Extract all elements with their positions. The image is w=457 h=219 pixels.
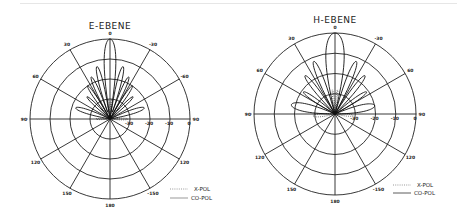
- legend: X-POL CO-POL: [393, 182, 436, 196]
- h-plane-polar-chart: H-EBENE 030-3060609090120120150-150180 -…: [245, 15, 436, 204]
- angle-label: -150: [373, 187, 384, 192]
- radial-label: -20: [145, 121, 153, 126]
- grid-spoke: [110, 119, 150, 188]
- angle-label: 0: [108, 31, 111, 36]
- angle-label: 150: [62, 191, 71, 196]
- angle-label: 60: [407, 68, 413, 73]
- angle-label: 30: [288, 36, 294, 41]
- angle-label: 90: [21, 117, 27, 122]
- angle-label: 60: [32, 74, 38, 79]
- chart-title-h-plane: H-EBENE: [313, 15, 356, 25]
- angle-label: 90: [193, 117, 199, 122]
- legend: X-POL CO-POL: [170, 186, 213, 201]
- angle-label: 0: [333, 25, 336, 30]
- angle-label: 120: [255, 155, 264, 160]
- angle-label: 30: [64, 42, 70, 47]
- angle-label: -30: [149, 42, 157, 47]
- angle-label: -60: [180, 74, 188, 79]
- grid-spoke: [70, 119, 110, 188]
- e-plane-polar-chart: E-EBENE 030-3060-609090120120150-150180 …: [21, 21, 213, 208]
- angle-label: 180: [330, 199, 339, 204]
- radial-label: -20: [370, 116, 378, 121]
- radial-label: -30: [350, 116, 358, 121]
- radial-tick-labels: -30-20-100: [350, 116, 416, 121]
- radial-label: 0: [413, 116, 416, 121]
- radial-label: -10: [165, 121, 173, 126]
- legend-xpol-label: X-POL: [194, 186, 211, 192]
- angle-label: 120: [406, 155, 415, 160]
- angle-label: 150: [287, 187, 296, 192]
- grid-spoke: [295, 44, 336, 114]
- radial-tick-labels: -30-20-100: [125, 121, 191, 126]
- chart-title-e-plane: E-EBENE: [89, 21, 131, 31]
- polar-charts: E-EBENE 030-3060-609090120120150-150180 …: [0, 0, 457, 219]
- angle-label: 90: [419, 112, 425, 117]
- angle-label: -150: [147, 191, 158, 196]
- radial-label: 0: [187, 121, 190, 126]
- grid-spoke: [335, 114, 376, 184]
- angle-label: 90: [245, 112, 251, 117]
- angle-label: 120: [180, 160, 189, 165]
- legend-xpol-label: X-POL: [417, 182, 434, 188]
- legend-copol-label: CO-POL: [191, 195, 213, 201]
- pattern-curves: [291, 33, 374, 117]
- angle-label: 60: [257, 68, 263, 73]
- angle-label: -30: [374, 36, 382, 41]
- angle-label: 180: [105, 203, 114, 208]
- grid-spoke: [41, 119, 110, 159]
- radial-label: -10: [391, 116, 399, 121]
- angle-label: 120: [31, 160, 40, 165]
- grid-spoke: [295, 114, 336, 184]
- legend-copol-label: CO-POL: [414, 190, 436, 196]
- grid-spoke: [265, 114, 335, 155]
- radial-label: -30: [125, 121, 133, 126]
